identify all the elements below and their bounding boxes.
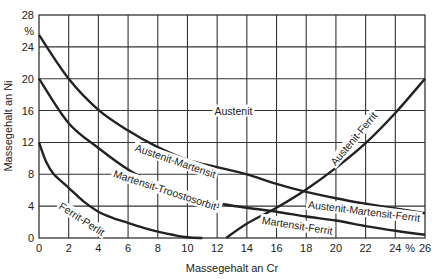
x-tick-label: 22 xyxy=(359,242,371,254)
x-tick-label: 10 xyxy=(181,242,193,254)
region-label-group: Ferrit-Perlit xyxy=(55,199,108,240)
x-tick-label: 24 xyxy=(389,242,401,254)
region-label-group: Austenit-Martensit-Ferrit xyxy=(306,198,423,224)
region-label: Martensit-Ferrit xyxy=(261,214,333,237)
x-tick-label: 16 xyxy=(270,242,282,254)
region-label-group: Martensit-Ferrit xyxy=(259,213,335,237)
x-tick-label: 0 xyxy=(36,242,42,254)
x-tick-label: 14 xyxy=(241,242,253,254)
y-tick-label: 24 xyxy=(22,41,34,53)
y-tick-label: 20 xyxy=(22,73,34,85)
region-label: Ferrit-Perlit xyxy=(57,200,107,238)
y-axis-label: Massegehalt an Ni xyxy=(2,80,14,171)
x-tick-label: % xyxy=(405,242,415,254)
y-unit-label: % xyxy=(24,25,34,37)
x-tick-label: 20 xyxy=(330,242,342,254)
x-tick-label: 6 xyxy=(125,242,131,254)
phase-diagram-chart: AustenitAustenit-MartensitMartensit-Troo… xyxy=(0,0,439,279)
x-tick-label: 8 xyxy=(155,242,161,254)
y-tick-label: 28 xyxy=(22,9,34,21)
region-label: Austenit xyxy=(215,105,253,117)
x-tick-label: 18 xyxy=(300,242,312,254)
region-label-group: Austenit xyxy=(213,105,255,117)
y-tick-label: 8 xyxy=(28,168,34,180)
x-tick-label: 2 xyxy=(66,242,72,254)
region-label-group: Austenit-Ferrit xyxy=(327,108,381,169)
y-tick-label: 12 xyxy=(22,136,34,148)
x-tick-label: 12 xyxy=(211,242,223,254)
y-tick-label: 0 xyxy=(28,232,34,244)
x-tick-label: 26 xyxy=(419,242,431,254)
y-tick-label: 4 xyxy=(28,200,34,212)
x-axis-label: Massegehalt an Cr xyxy=(186,262,279,274)
x-tick-label: 4 xyxy=(95,242,101,254)
y-tick-label: 16 xyxy=(22,105,34,117)
